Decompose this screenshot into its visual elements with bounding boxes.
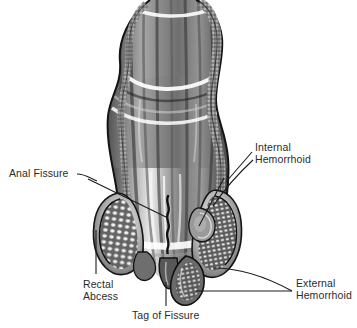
label-internal-hemorrhoid-line2: Hemorrhoid xyxy=(255,153,311,165)
label-rectal-abcess-line1: Rectal xyxy=(83,278,113,290)
label-external-hemorrhoid-line2: Hemorrhoid xyxy=(296,289,352,301)
label-external-hemorrhoid-line1: External xyxy=(296,277,335,289)
label-anal-fissure: Anal Fissure xyxy=(9,167,69,179)
label-rectal-abcess-line2: Abcess xyxy=(83,290,118,302)
anal-verge-region xyxy=(134,252,205,305)
leader-internal-hem-a xyxy=(226,152,252,182)
label-tag-of-fissure: Tag of Fissure xyxy=(132,309,199,321)
label-internal-hemorrhoid: InternalHemorrhoid xyxy=(255,141,311,165)
leader-anal-fissure-a xyxy=(77,174,97,181)
label-external-hemorrhoid: ExternalHemorrhoid xyxy=(296,277,352,301)
label-internal-hemorrhoid-line1: Internal xyxy=(255,141,291,153)
anorectal-anatomy-figure: Anal Fissure InternalHemorrhoid External… xyxy=(0,0,357,328)
label-rectal-abcess: RectalAbcess xyxy=(83,278,118,302)
left-perianal-fold xyxy=(134,252,156,280)
